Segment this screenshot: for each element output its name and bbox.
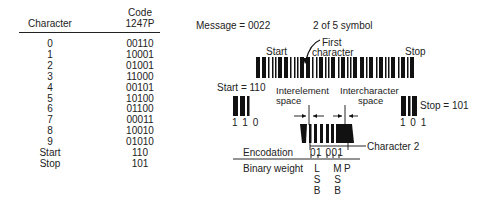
stop-bits: 1 0 1 [400, 117, 427, 128]
character2-label: Character 2 [367, 141, 419, 152]
encodation-value: 01 001 [310, 147, 344, 158]
first-character-label-line2: character [312, 47, 354, 58]
lsb-label: L S B [313, 163, 321, 196]
start-equation: Start = 110 [217, 82, 265, 93]
character2-bars [300, 124, 354, 143]
intercharacter-label-line2: space [358, 96, 383, 106]
encodation-label: Encodation [243, 147, 293, 158]
stop-bars [401, 96, 417, 116]
start-label: Start [266, 46, 287, 57]
barcode-symbol [256, 57, 414, 78]
message-label: Message = 0022 [196, 20, 270, 31]
binary-weight-label: Binary weight [243, 163, 303, 174]
stop-equation: Stop = 101 [420, 100, 469, 111]
start-bars [233, 96, 250, 116]
symbol-title: 2 of 5 symbol [313, 20, 372, 31]
start-bits: 1 1 0 [232, 117, 259, 128]
stop-label: Stop [405, 46, 426, 57]
interelement-label-line2: space [276, 96, 301, 106]
parity-label: P [344, 163, 351, 174]
msb-label: M S B [333, 163, 342, 196]
